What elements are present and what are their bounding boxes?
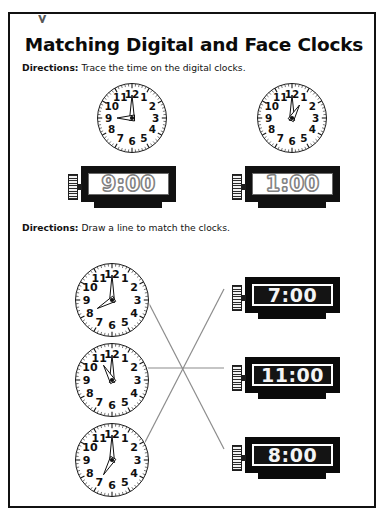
analog-clock-match-2: 121234567891011	[74, 342, 150, 418]
svg-text:5: 5	[140, 132, 147, 144]
svg-text:7: 7	[277, 132, 284, 144]
svg-text:2: 2	[149, 100, 156, 112]
digital-time-trace-1: 9:00	[101, 174, 155, 195]
svg-text:6: 6	[108, 319, 116, 332]
svg-text:11: 11	[113, 91, 127, 103]
page-title: Matching Digital and Face Clocks	[10, 34, 378, 55]
svg-text:11: 11	[92, 432, 107, 445]
digital-time-match-1: 7:00	[268, 286, 317, 305]
clock-connector-nub	[241, 184, 246, 190]
page-edge-artifact: y	[38, 12, 64, 23]
svg-text:8: 8	[86, 307, 94, 320]
svg-text:5: 5	[300, 132, 307, 144]
directions-match-label: Directions:	[22, 222, 79, 233]
directions-trace: Directions: Trace the time on the digita…	[22, 62, 246, 73]
svg-text:9: 9	[265, 112, 272, 124]
directions-match-text: Draw a line to match the clocks.	[81, 222, 229, 233]
digital-time-match-2: 11:00	[261, 366, 324, 385]
analog-clock-trace-1: 121234567891011	[96, 82, 168, 154]
worksheet-page: y Matching Digital and Face Clocks Direc…	[8, 12, 376, 508]
svg-text:11: 11	[92, 352, 107, 365]
directions-match: Directions: Draw a line to match the clo…	[22, 222, 230, 233]
svg-text:7: 7	[95, 316, 103, 329]
svg-text:8: 8	[268, 123, 275, 135]
clock-connector-nub	[241, 295, 246, 301]
directions-trace-text: Trace the time on the digital clocks.	[81, 62, 245, 73]
svg-text:3: 3	[152, 112, 159, 124]
svg-text:6: 6	[108, 479, 116, 492]
svg-text:7: 7	[117, 132, 124, 144]
svg-text:1: 1	[121, 352, 129, 365]
svg-text:7: 7	[95, 476, 103, 489]
svg-text:1: 1	[140, 91, 147, 103]
svg-text:8: 8	[86, 387, 94, 400]
svg-text:9: 9	[105, 112, 112, 124]
svg-text:2: 2	[130, 361, 138, 374]
digital-clock-trace-2: 1:00	[232, 166, 340, 208]
svg-text:3: 3	[134, 294, 142, 307]
svg-text:9: 9	[83, 374, 91, 387]
svg-text:5: 5	[121, 476, 129, 489]
svg-text:1: 1	[121, 272, 129, 285]
digital-clock-match-2: 11:00	[232, 357, 340, 399]
svg-text:11: 11	[92, 272, 107, 285]
svg-text:3: 3	[312, 112, 319, 124]
svg-text:5: 5	[121, 396, 129, 409]
svg-text:6: 6	[128, 135, 135, 147]
digital-time-match-3: 8:00	[268, 446, 317, 465]
svg-text:8: 8	[108, 123, 115, 135]
svg-text:11: 11	[273, 91, 287, 103]
svg-text:8: 8	[86, 467, 94, 480]
svg-text:9: 9	[83, 454, 91, 467]
svg-text:7: 7	[95, 396, 103, 409]
svg-text:1: 1	[121, 432, 129, 445]
clock-connector-nub	[241, 375, 246, 381]
svg-text:1: 1	[300, 91, 307, 103]
directions-trace-label: Directions:	[22, 62, 79, 73]
analog-clock-match-1: 121234567891011	[74, 262, 150, 338]
svg-text:2: 2	[130, 281, 138, 294]
digital-time-trace-2: 1:00	[265, 174, 319, 195]
svg-text:4: 4	[130, 307, 138, 320]
svg-text:3: 3	[134, 374, 142, 387]
clock-connector-nub	[77, 184, 82, 190]
svg-text:4: 4	[130, 387, 138, 400]
svg-text:2: 2	[130, 441, 138, 454]
svg-text:4: 4	[149, 123, 156, 135]
svg-text:4: 4	[309, 123, 316, 135]
svg-text:2: 2	[309, 100, 316, 112]
svg-text:6: 6	[108, 399, 116, 412]
svg-text:5: 5	[121, 316, 129, 329]
digital-clock-match-3: 8:00	[232, 437, 340, 479]
digital-clock-match-1: 7:00	[232, 277, 340, 319]
analog-clock-trace-2: 121234567891011	[256, 82, 328, 154]
clock-connector-nub	[241, 455, 246, 461]
digital-clock-trace-1: 9:00	[68, 166, 176, 208]
svg-text:6: 6	[288, 135, 295, 147]
svg-text:4: 4	[130, 467, 138, 480]
analog-clock-match-3: 121234567891011	[74, 422, 150, 498]
svg-text:9: 9	[83, 294, 91, 307]
svg-text:3: 3	[134, 454, 142, 467]
